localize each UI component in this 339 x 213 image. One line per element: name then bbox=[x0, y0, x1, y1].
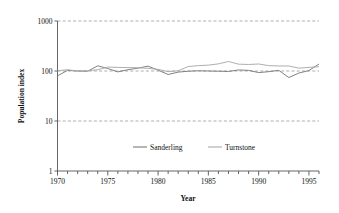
y-tick-label-1: 1 bbox=[49, 167, 53, 176]
x-tick-label-1980: 1980 bbox=[151, 177, 166, 186]
x-tick-label-1990: 1990 bbox=[251, 177, 266, 186]
y-axis-title: Population index bbox=[17, 69, 26, 124]
y-tick-label-10: 10 bbox=[45, 117, 53, 126]
x-tick-label-1975: 1975 bbox=[100, 177, 115, 186]
population-index-line-chart: 1101001000 197019751980198519901995 Sand… bbox=[0, 0, 339, 213]
chart-figure: 1101001000 197019751980198519901995 Sand… bbox=[0, 0, 339, 213]
x-tick-label-1995: 1995 bbox=[301, 177, 316, 186]
y-tick-label-100: 100 bbox=[41, 67, 53, 76]
y-tick-label-1000: 1000 bbox=[38, 17, 53, 26]
x-axis-title: Year bbox=[181, 194, 197, 203]
x-tick-label-1970: 1970 bbox=[50, 177, 65, 186]
legend-label-turnstone: Turnstone bbox=[225, 143, 256, 152]
legend-label-sanderling: Sanderling bbox=[150, 143, 183, 152]
x-tick-label-1985: 1985 bbox=[201, 177, 216, 186]
